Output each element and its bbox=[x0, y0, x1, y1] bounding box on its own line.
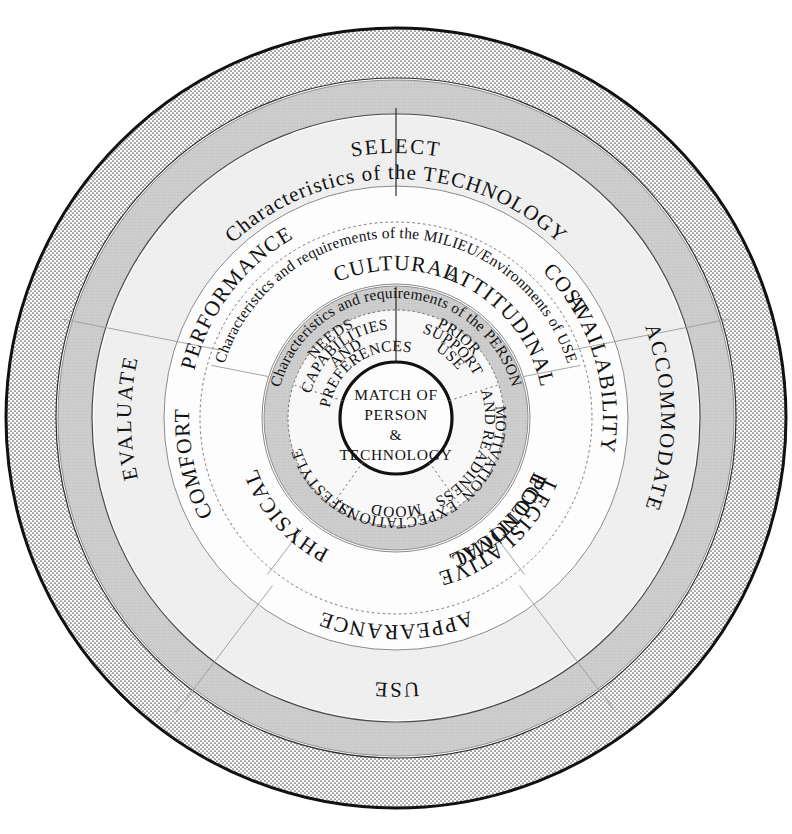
mpt-diagram-svg: SELECT ACCOMMODATE USE EVALUATE Characte… bbox=[0, 0, 792, 834]
stage-label-use: USE bbox=[372, 677, 420, 702]
center-line-3: & bbox=[390, 426, 403, 443]
mpt-diagram: SELECT ACCOMMODATE USE EVALUATE Characte… bbox=[0, 0, 792, 834]
center-line-1: MATCH OF bbox=[354, 386, 438, 403]
center-line-2: PERSON bbox=[364, 406, 428, 423]
center-line-4: TECHNOLOGY bbox=[340, 446, 453, 463]
